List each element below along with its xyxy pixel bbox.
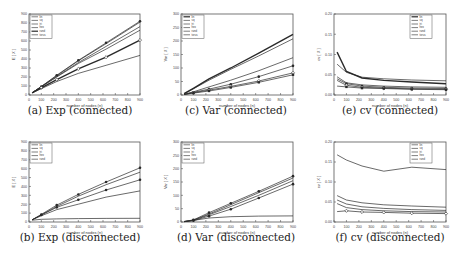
x-tick-label: 700: [418, 225, 424, 229]
x-tick-label: 800: [431, 225, 437, 229]
x-tick-label: 500: [393, 225, 399, 229]
y-tick-label: 0.05: [325, 200, 332, 204]
panel-caption-f: (f) cv (disconnected): [310, 231, 463, 243]
chart-f: 01002003004005006007008009000.000.050.10…: [0, 0, 463, 267]
y-tick-label: 0.15: [325, 160, 332, 164]
x-tick-label: 300: [368, 225, 374, 229]
x-tick-label: 0: [333, 225, 335, 229]
legend: linsqtrihexrand: [410, 143, 432, 163]
x-tick-label: 400: [381, 225, 387, 229]
x-tick-label: 100: [343, 225, 349, 229]
y-tick-label: 0.20: [325, 140, 332, 144]
y-tick-label: 0.00: [325, 220, 332, 224]
x-tick-label: 200: [356, 225, 362, 229]
y-tick-label: 0.10: [325, 180, 332, 184]
y-axis-label: cv [ X ]: [316, 176, 321, 188]
legend-entry: rand: [420, 157, 426, 161]
x-tick-label: 900: [443, 225, 449, 229]
x-tick-label: 600: [406, 225, 412, 229]
